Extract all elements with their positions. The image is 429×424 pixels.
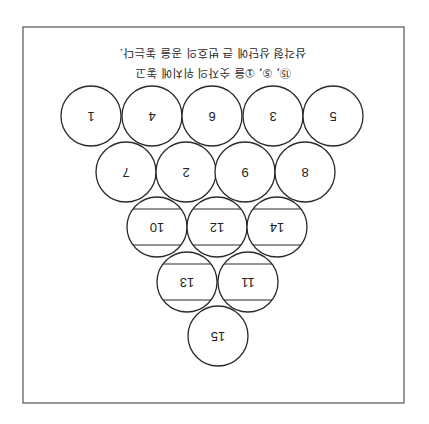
ball-number: 10 <box>150 220 164 235</box>
ball-number: 6 <box>208 109 215 124</box>
ball-3: 3 <box>243 86 303 146</box>
ball-number: 8 <box>301 165 308 180</box>
ball-number: 11 <box>241 275 255 290</box>
ball-13: 13 <box>157 252 217 312</box>
ball-number: 15 <box>211 329 225 344</box>
ball-10: 10 <box>127 197 187 257</box>
ball-number: 9 <box>241 165 248 180</box>
ball-6: 6 <box>182 86 242 146</box>
ball-number: 13 <box>180 275 194 290</box>
ball-12: 12 <box>187 197 247 257</box>
caption-line-2: 삼각형 상단에 큰 번호의 공을 놓는다. <box>120 46 307 60</box>
ball-triangle: 146357298101214131115 <box>61 86 363 366</box>
caption: ⑮, ⑤, ①을 숫자의 위치에 놓고 삼각형 상단에 큰 번호의 공을 놓는다… <box>120 46 307 80</box>
ball-9: 9 <box>215 142 275 202</box>
ball-7: 7 <box>96 142 156 202</box>
ball-number: 12 <box>210 220 224 235</box>
ball-4: 4 <box>122 86 182 146</box>
ball-5: 5 <box>303 86 363 146</box>
ball-1: 1 <box>61 86 121 146</box>
ball-2: 2 <box>156 142 216 202</box>
ball-number: 3 <box>269 109 276 124</box>
billiard-rack-diagram: ⑮, ⑤, ①을 숫자의 위치에 놓고 삼각형 상단에 큰 번호의 공을 놓는다… <box>0 0 429 424</box>
ball-8: 8 <box>275 142 335 202</box>
caption-line-1: ⑮, ⑤, ①을 숫자의 위치에 놓고 <box>135 66 291 80</box>
ball-number: 14 <box>270 220 284 235</box>
ball-11: 11 <box>218 252 278 312</box>
ball-15: 15 <box>188 306 248 366</box>
ball-number: 2 <box>182 165 189 180</box>
ball-number: 4 <box>148 109 155 124</box>
ball-number: 7 <box>122 165 129 180</box>
ball-number: 5 <box>329 109 336 124</box>
ball-14: 14 <box>247 197 307 257</box>
ball-number: 1 <box>87 109 94 124</box>
